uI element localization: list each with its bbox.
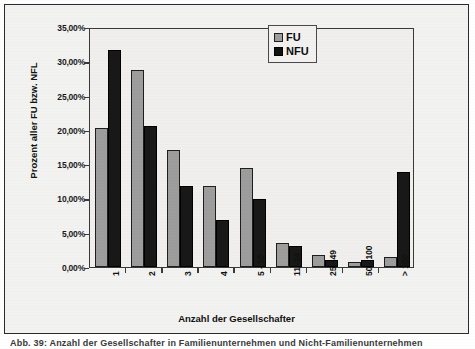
y-axis-tick-mark: [84, 165, 89, 166]
bar-fu-6: [276, 243, 289, 267]
y-axis-tick-label: 35,00%: [31, 24, 85, 33]
y-axis-tick-label: 15,00%: [31, 161, 85, 170]
bar-chart: Prozent aller FU bzw. NFL 0,00%5,00%10,0…: [5, 5, 468, 333]
y-axis-tick-labels: 0,00%5,00%10,00%15,00%20,00%25,00%30,00%…: [27, 28, 85, 268]
x-axis-tick-label: 11 -24: [292, 253, 302, 276]
x-axis-title: Anzahl der Gesellschafter: [5, 313, 468, 324]
x-axis-tick-mark: [125, 268, 126, 273]
y-axis-tick-mark: [84, 131, 89, 132]
bar-fu-3: [167, 150, 180, 267]
bar-nfu-4: [216, 220, 229, 267]
bar-fu-9: [384, 257, 397, 267]
y-axis-tick-label: 30,00%: [31, 58, 85, 67]
x-axis-tick-label: 2: [147, 271, 157, 276]
bar-nfu-1: [108, 50, 121, 267]
plot-area: [89, 28, 414, 268]
legend-label-fu: FU: [286, 31, 301, 43]
x-axis-tick-label: 3: [183, 271, 193, 276]
y-axis-tick-mark: [84, 268, 89, 269]
y-axis-tick-mark: [84, 97, 89, 98]
bar-fu-5: [240, 168, 253, 267]
x-axis-tick-mark: [233, 268, 234, 273]
legend-label-nfu: NFU: [286, 45, 309, 57]
bar-nfu-2: [144, 126, 157, 267]
x-axis-tick-label: 1: [111, 271, 121, 276]
y-axis-tick-label: 0,00%: [31, 264, 85, 273]
figure-frame: Prozent aller FU bzw. NFL 0,00%5,00%10,0…: [4, 4, 469, 334]
x-axis-tick-label: 25 - 49: [328, 250, 338, 276]
bar-fu-8: [348, 262, 361, 267]
bar-nfu-3: [180, 186, 193, 267]
bars-container: [90, 29, 413, 267]
x-axis-tick-label: 4: [219, 271, 229, 276]
x-axis-tick-mark: [270, 268, 271, 273]
y-axis-tick-label: 10,00%: [31, 195, 85, 204]
x-axis-tick-label: > 100: [400, 255, 410, 276]
y-axis-tick-label: 25,00%: [31, 92, 85, 101]
bar-fu-1: [95, 128, 108, 267]
legend-swatch-fu-icon: [274, 33, 283, 42]
y-axis-tick-mark: [84, 234, 89, 235]
legend-item-fu: FU: [274, 30, 309, 44]
legend-swatch-nfu-icon: [274, 47, 283, 56]
x-axis-tick-label: 5 - 10: [256, 255, 266, 276]
x-axis-tick-mark: [378, 268, 379, 273]
y-axis-tick-mark: [84, 28, 89, 29]
figure-caption: Abb. 39: Anzahl der Gesellschafter in Fa…: [10, 338, 465, 349]
y-axis-tick-mark: [84, 62, 89, 63]
bar-fu-7: [312, 255, 325, 267]
bar-fu-4: [203, 186, 216, 267]
y-axis-tick-label: 5,00%: [31, 229, 85, 238]
bar-fu-2: [131, 70, 144, 267]
chart-legend: FU NFU: [268, 25, 317, 63]
x-axis-tick-mark: [342, 268, 343, 273]
x-axis-tick-mark: [161, 268, 162, 273]
x-axis-tick-label: 50 - 100: [364, 246, 374, 276]
y-axis-tick-label: 20,00%: [31, 126, 85, 135]
y-axis-tick-mark: [84, 199, 89, 200]
screenshot-page: Prozent aller FU bzw. NFL 0,00%5,00%10,0…: [0, 0, 475, 349]
bar-nfu-9: [397, 172, 410, 267]
legend-item-nfu: NFU: [274, 44, 309, 58]
x-axis-tick-mark: [197, 268, 198, 273]
x-axis-tick-mark: [306, 268, 307, 273]
